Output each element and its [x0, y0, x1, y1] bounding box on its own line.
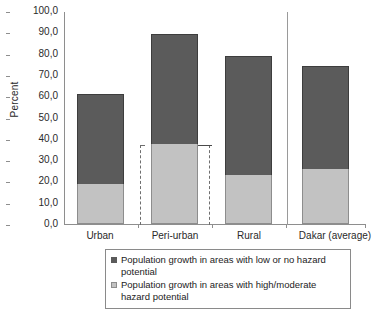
peri-urban-split-tick — [198, 145, 212, 146]
plot-area: 100,0 90,0 80,0 70,0 60,0 50,0 40,0 30,0… — [64, 12, 366, 225]
y-tick-mark — [6, 161, 10, 162]
bar-rural-segment-high-moderate — [225, 175, 272, 224]
legend-item-low-none: Population growth in areas with low or n… — [111, 254, 345, 277]
bar-urban — [77, 94, 124, 224]
bar-urban-segment-high-moderate — [77, 184, 124, 224]
bar-dakar-average — [302, 66, 349, 224]
y-tick-mark — [6, 204, 10, 205]
dakar-separator-line — [287, 12, 288, 225]
bar-urban-segment-low-none — [77, 94, 124, 183]
legend-item-high-moderate: Population growth in areas with high/mod… — [111, 279, 345, 302]
x-label-urban: Urban — [70, 230, 130, 241]
x-axis-line — [64, 224, 366, 225]
legend-label-low-none: Population growth in areas with low or n… — [121, 254, 345, 277]
peri-urban-bracket-left-cap — [140, 145, 145, 146]
peri-urban-bracket-left — [140, 145, 141, 225]
y-tick-mark — [6, 97, 10, 98]
bar-peri-urban — [151, 34, 198, 224]
y-tick-mark — [6, 119, 10, 120]
x-tick-mark — [212, 224, 213, 228]
x-tick-mark — [365, 224, 366, 228]
legend-swatch-dark-icon — [111, 257, 117, 263]
bar-dakar-average-segment-high-moderate — [302, 169, 349, 224]
x-label-peri-urban: Peri-urban — [139, 230, 211, 241]
y-tick-mark — [6, 225, 10, 226]
x-tick-mark — [138, 224, 139, 228]
y-tick-mark — [6, 33, 10, 34]
bar-peri-urban-segment-high-moderate — [151, 144, 198, 224]
peri-urban-bracket-right — [209, 145, 210, 225]
x-label-dakar-average: Dakar (average) — [282, 230, 376, 241]
y-axis-title: Percent — [9, 65, 20, 135]
y-tick-mark — [6, 12, 10, 13]
legend-label-high-moderate: Population growth in areas with high/mod… — [121, 279, 345, 302]
y-tick-mark — [6, 55, 10, 56]
y-tick-mark — [6, 76, 10, 77]
legend-swatch-light-icon — [111, 282, 117, 288]
bar-peri-urban-segment-low-none — [151, 34, 198, 144]
x-label-rural: Rural — [220, 230, 278, 241]
chart-legend: Population growth in areas with low or n… — [105, 249, 351, 309]
y-tick-mark — [6, 182, 10, 183]
bar-rural-segment-low-none — [225, 56, 272, 175]
y-axis-line — [64, 12, 65, 225]
bar-rural — [225, 56, 272, 224]
y-tick-mark — [6, 140, 10, 141]
bar-dakar-average-segment-low-none — [302, 66, 349, 168]
